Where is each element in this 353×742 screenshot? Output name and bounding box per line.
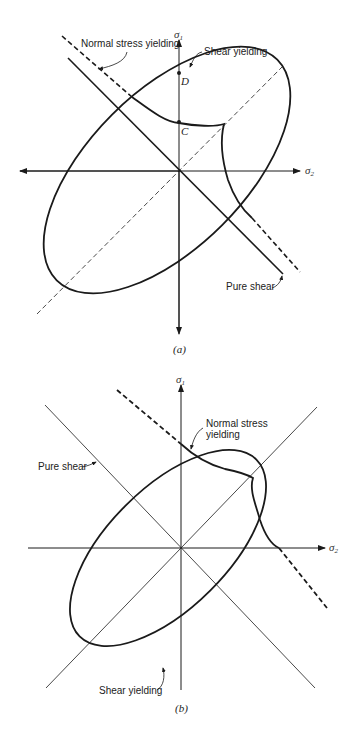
a-normal-stress-dashed-lower: [252, 218, 300, 272]
b-sigma2-label: σ2: [329, 541, 338, 555]
a-shear-label: Shear yielding: [204, 46, 267, 57]
a-pure-shear-line: [68, 58, 283, 274]
b-normal-stress-dashed-lower: [279, 548, 327, 608]
b-sigma1-label: σ1: [176, 373, 185, 387]
a-sigma2-label: σ2: [305, 164, 314, 178]
b-pure-shear-line: [45, 405, 315, 688]
a-point-c-label: C: [181, 125, 189, 137]
b-shear-label: Shear yielding: [99, 685, 162, 696]
yield-criteria-figure: σ1 σ2 D C Normal stress yielding Shear y…: [0, 0, 353, 742]
b-normal-stress-leader: [191, 428, 203, 449]
a-point-c: [177, 120, 181, 124]
a-biaxial-diagonal: [37, 64, 285, 314]
a-normal-stress-leader: [99, 52, 127, 69]
a-pure-shear-label: Pure shear: [226, 281, 276, 292]
b-normal-stress-label-2: yielding: [206, 429, 240, 440]
a-normal-stress-label: Normal stress yielding: [81, 38, 179, 49]
figure-a: σ1 σ2 D C Normal stress yielding Shear y…: [2, 5, 333, 356]
a-caption: (a): [173, 343, 186, 356]
a-point-d-label: D: [180, 75, 189, 87]
b-pure-shear-label: Pure shear: [38, 461, 88, 472]
b-normal-stress-dashed-upper: [117, 390, 181, 444]
a-shear-ellipse: [2, 5, 333, 336]
b-normal-stress-label-1: Normal stress: [206, 418, 268, 429]
figure-b: σ1 σ2 Normal stress yielding Pure shear …: [28, 373, 338, 715]
b-caption: (b): [175, 702, 188, 715]
